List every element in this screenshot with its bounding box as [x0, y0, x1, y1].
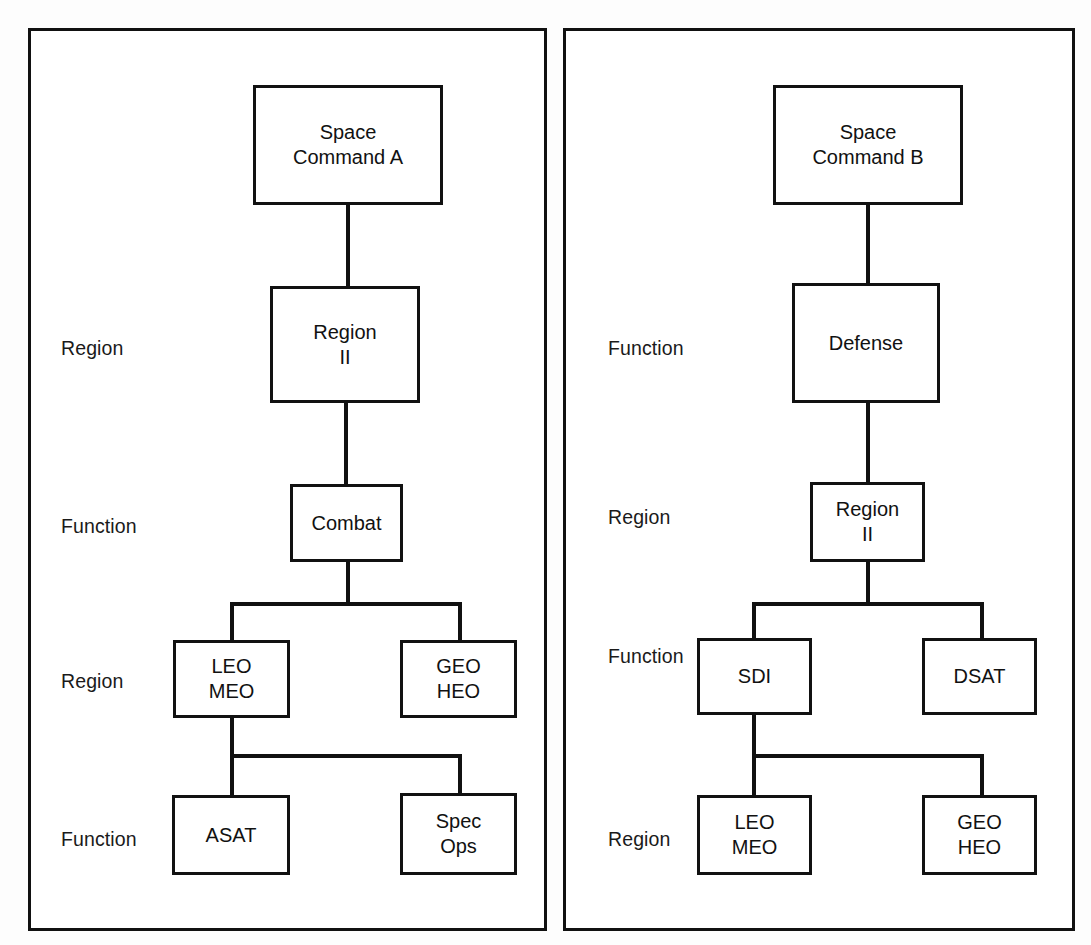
connector-a-region-to-combat: [344, 403, 348, 486]
connector-b-split-bar: [752, 602, 984, 606]
connector-a-split-left: [230, 602, 234, 642]
node-geo-heo-b[interactable]: GEO HEO: [922, 795, 1037, 875]
node-asat[interactable]: ASAT: [172, 795, 290, 875]
connector-b-split-right: [980, 602, 984, 640]
connector-b-sdi-down: [752, 715, 756, 757]
connector-b-split-left: [752, 602, 756, 640]
connector-b-defense-to-reg: [866, 403, 870, 484]
node-leo-meo[interactable]: LEO MEO: [173, 640, 290, 718]
connector-a-split-right: [458, 602, 462, 642]
connector-b-split2-left: [752, 754, 756, 797]
connector-b-split2-right: [980, 754, 984, 797]
node-combat[interactable]: Combat: [290, 484, 403, 562]
row-label-panel-b-3: Region: [608, 828, 670, 850]
connector-b-split2-bar: [752, 754, 984, 758]
row-label-panel-b-1: Region: [608, 506, 670, 528]
node-sdi[interactable]: SDI: [697, 638, 812, 715]
connector-a-split2-left: [230, 754, 234, 798]
connector-a-split-bar: [230, 602, 462, 606]
diagram-canvas: RegionFunctionRegionFunctionSpace Comman…: [0, 0, 1091, 945]
connector-b-region-down: [866, 562, 870, 604]
node-space-command-a[interactable]: Space Command A: [253, 85, 443, 205]
node-geo-heo[interactable]: GEO HEO: [400, 640, 517, 718]
node-region-ii-b[interactable]: Region II: [810, 482, 925, 562]
connector-a-leo-down: [230, 718, 234, 758]
connector-a-combat-down: [346, 562, 350, 606]
connector-a-split2-right: [458, 754, 462, 796]
row-label-panel-b-2: Function: [608, 645, 684, 667]
row-label-panel-b-0: Function: [608, 337, 684, 359]
row-label-panel-a-3: Function: [61, 828, 137, 850]
node-spec-ops[interactable]: Spec Ops: [400, 793, 517, 875]
node-defense[interactable]: Defense: [792, 283, 940, 403]
connector-b-sc-to-defense: [866, 205, 870, 285]
node-leo-meo-b[interactable]: LEO MEO: [697, 795, 812, 875]
connector-a-split2-bar: [230, 754, 462, 758]
node-region-ii[interactable]: Region II: [270, 286, 420, 403]
connector-a-sc-to-region: [346, 205, 350, 288]
row-label-panel-a-0: Region: [61, 337, 123, 359]
node-dsat[interactable]: DSAT: [922, 638, 1037, 715]
row-label-panel-a-2: Region: [61, 670, 123, 692]
row-label-panel-a-1: Function: [61, 515, 137, 537]
node-space-command-b[interactable]: Space Command B: [773, 85, 963, 205]
